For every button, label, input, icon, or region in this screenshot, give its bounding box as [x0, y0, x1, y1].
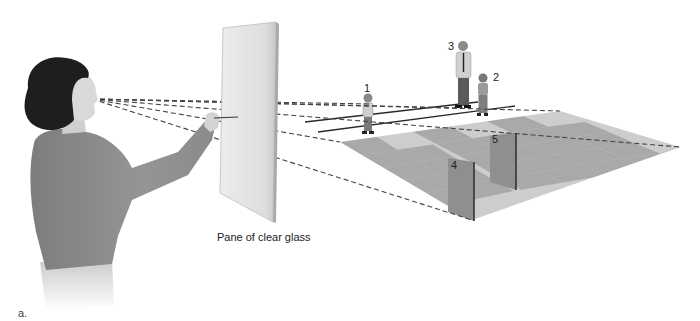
label-panel-4: 4: [451, 160, 457, 171]
woman-observer: [25, 57, 239, 310]
panel-letter: a.: [18, 308, 27, 319]
label-panel-5: 5: [492, 134, 498, 145]
label-figure-3: 3: [448, 41, 454, 52]
glass-pane: [220, 22, 279, 223]
glass-caption: Pane of clear glass: [217, 232, 311, 243]
perspective-diagram: [0, 0, 700, 321]
label-figure-2: 2: [493, 72, 499, 83]
label-figure-1: 1: [364, 83, 370, 94]
figure-1-child: [362, 94, 374, 135]
figure-3-man: [455, 41, 471, 108]
